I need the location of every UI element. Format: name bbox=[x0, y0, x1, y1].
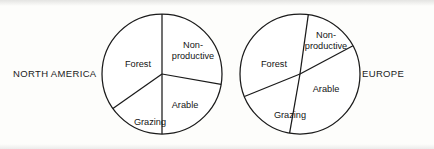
figure-canvas: Forest Non- productive Arable Grazing NO… bbox=[0, 0, 434, 149]
land-use-pie-figure: Forest Non- productive Arable Grazing NO… bbox=[0, 0, 434, 149]
eu-slice-label-forest: Forest bbox=[261, 59, 287, 69]
pie-chart-europe: Forest Non- productive Arable Grazing bbox=[240, 14, 360, 134]
pie-chart-north-america: Forest Non- productive Arable Grazing bbox=[102, 14, 222, 134]
region-label-europe: EUROPE bbox=[362, 68, 404, 79]
na-slice-label-nonproductive-line1: Non- bbox=[183, 40, 203, 50]
eu-slice-label-grazing: Grazing bbox=[274, 110, 306, 120]
region-label-north-america: NORTH AMERICA bbox=[13, 68, 97, 79]
na-slice-label-grazing: Grazing bbox=[134, 117, 166, 127]
eu-slice-label-nonproductive-line2: productive bbox=[305, 41, 347, 51]
na-slice-label-arable: Arable bbox=[172, 100, 199, 110]
eu-slice-label-arable: Arable bbox=[313, 84, 340, 94]
na-slice-label-nonproductive-line2: productive bbox=[172, 51, 214, 61]
na-slice-label-forest: Forest bbox=[125, 59, 151, 69]
eu-slice-label-nonproductive-line1: Non- bbox=[316, 30, 336, 40]
